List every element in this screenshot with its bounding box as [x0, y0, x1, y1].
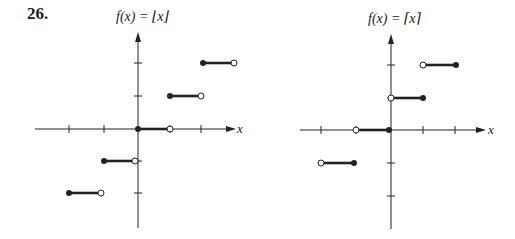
x-axis-arrow-icon [226, 126, 236, 132]
floor-graph [35, 32, 237, 228]
closed-dots [66, 60, 206, 196]
graphs: x x [0, 0, 515, 239]
x-axis-arrow-icon [476, 127, 486, 133]
y-axis-arrow-icon [135, 32, 141, 42]
ceiling-graph [300, 34, 486, 229]
open-dots [98, 60, 237, 196]
closed-dots [351, 62, 459, 166]
step-segments [69, 63, 231, 193]
ceiling-x-label: x [487, 122, 494, 137]
y-axis-arrow-icon [388, 34, 394, 44]
step-segments [324, 65, 456, 163]
floor-x-label: x [236, 121, 243, 136]
open-dots [318, 62, 426, 166]
